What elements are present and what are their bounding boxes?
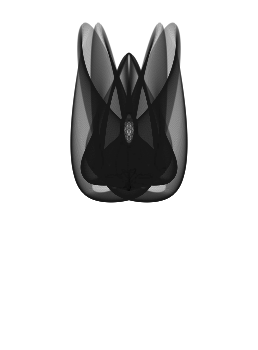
harmonograph-figure [0, 0, 258, 350]
curve-svg [0, 0, 258, 350]
